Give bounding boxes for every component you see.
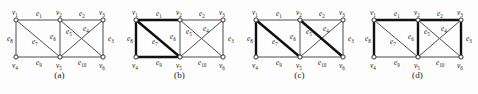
vertex-label-v3: v3: [219, 8, 225, 18]
edge-label-e4: e4: [323, 24, 329, 34]
edge-label-e5: e5: [66, 27, 72, 37]
vertex-label-subscript: 2: [179, 12, 182, 18]
edge-label-e3: e3: [108, 34, 114, 44]
edge-label-subscript: 10: [439, 62, 445, 68]
vertex-v6: [101, 55, 105, 59]
edge-label-e6: e6: [408, 32, 414, 42]
panel-caption-c: (c): [240, 70, 359, 80]
edge-label-subscript: 9: [159, 62, 162, 68]
edge-label-subscript: 7: [275, 41, 278, 47]
vertex-label-v1: v1: [132, 8, 138, 18]
edge-label-e1: e1: [394, 9, 400, 19]
vertex-v5: [298, 55, 302, 59]
edge-label-e8: e8: [365, 34, 371, 44]
vertex-label-subscript: 2: [299, 12, 302, 18]
vertex-v2: [178, 18, 182, 22]
edge-label-e5: e5: [424, 27, 430, 37]
vertex-label-v1: v1: [12, 8, 18, 18]
vertex-label-subscript: 1: [255, 12, 258, 18]
edge-label-subscript: 6: [293, 36, 296, 42]
edge-label-subscript: 2: [202, 13, 205, 19]
edge-label-e2: e2: [319, 9, 325, 19]
vertex-v6: [341, 55, 345, 59]
graph-panel-a: e1e2e3e4e5e6e7e8e9e10v1v2v3v4v5v6(a): [0, 0, 119, 94]
vertex-label-subscript: 3: [102, 12, 105, 18]
edge-label-e9: e9: [276, 58, 282, 68]
edge-label-e6: e6: [50, 32, 56, 42]
edge-label-e9: e9: [156, 58, 162, 68]
panel-caption-d: (d): [358, 70, 477, 80]
vertex-group: v1v2v3v4v5v6: [252, 8, 345, 71]
vertex-v1: [134, 18, 138, 22]
edge-label-e9: e9: [36, 58, 42, 68]
edge-label-e3: e3: [466, 34, 472, 44]
edge-label-e4: e4: [203, 24, 209, 34]
edge-label-subscript: 5: [427, 31, 430, 37]
edge-label-e1: e1: [276, 9, 282, 19]
vertex-label-subscript: 2: [417, 12, 420, 18]
edge-label-subscript: 5: [189, 31, 192, 37]
graph-diagram-a: e1e2e3e4e5e6e7e8e9e10v1v2v3v4v5v6: [0, 0, 119, 72]
edge-label-subscript: 1: [279, 13, 282, 19]
vertex-v4: [14, 55, 18, 59]
vertex-label-v3: v3: [339, 8, 345, 18]
edge-label-e4: e4: [441, 24, 447, 34]
graph-diagram-d: e1e2e3e4e5e6e7e8e9e10v1v2v3v4v5v6: [358, 0, 477, 72]
vertex-label-subscript: 3: [460, 12, 463, 18]
edge-label-subscript: 10: [201, 62, 207, 68]
edge-label-subscript: 8: [130, 38, 133, 44]
vertex-v5: [416, 55, 420, 59]
edge-label-subscript: 6: [53, 36, 56, 42]
vertex-group: v1v2v3v4v5v6: [12, 8, 105, 71]
edge-label-e6: e6: [290, 32, 296, 42]
vertex-label-v1: v1: [252, 8, 258, 18]
vertex-v5: [58, 55, 62, 59]
vertex-v3: [459, 18, 463, 22]
vertex-label-v2: v2: [414, 8, 420, 18]
edge-group-highlighted: [374, 20, 461, 57]
vertex-v2: [58, 18, 62, 22]
edge-label-e10: e10: [198, 58, 207, 68]
edge-label-e10: e10: [436, 58, 445, 68]
vertex-label-subscript: 3: [222, 12, 225, 18]
edge-label-subscript: 9: [39, 62, 42, 68]
edge-label-subscript: 9: [397, 62, 400, 68]
edge-label-subscript: 7: [393, 41, 396, 47]
vertex-label-v3: v3: [457, 8, 463, 18]
edge-label-subscript: 1: [39, 13, 42, 19]
vertex-v3: [101, 18, 105, 22]
vertex-v1: [254, 18, 258, 22]
graph-panel-c: e1e2e3e4e5e6e7e8e9e10v1v2v3v4v5v6(c): [240, 0, 359, 94]
edge-label-subscript: 1: [397, 13, 400, 19]
panel-caption-b: (b): [120, 70, 239, 80]
vertex-label-subscript: 3: [342, 12, 345, 18]
vertex-label-subscript: 1: [373, 12, 376, 18]
edge-label-subscript: 7: [35, 41, 38, 47]
vertex-label-v2: v2: [296, 8, 302, 18]
vertex-v4: [134, 55, 138, 59]
edge-label-subscript: 9: [279, 62, 282, 68]
edge-label-subscript: 8: [250, 38, 253, 44]
vertex-v4: [254, 55, 258, 59]
edge-label-e3: e3: [348, 34, 354, 44]
vertex-v2: [298, 18, 302, 22]
edge-label-subscript: 5: [69, 31, 72, 37]
edge-label-subscript: 3: [231, 38, 234, 44]
vertex-v6: [221, 55, 225, 59]
edge-label-e2: e2: [437, 9, 443, 19]
edge-label-subscript: 8: [10, 38, 13, 44]
vertex-v3: [341, 18, 345, 22]
edge-label-subscript: 10: [81, 62, 87, 68]
edge-label-subscript: 6: [411, 36, 414, 42]
edge-label-subscript: 2: [82, 13, 85, 19]
edge-label-e8: e8: [247, 34, 253, 44]
vertex-label-subscript: 1: [15, 12, 18, 18]
vertex-label-v2: v2: [176, 8, 182, 18]
edge-label-subscript: 3: [351, 38, 354, 44]
edge-label-subscript: 7: [155, 41, 158, 47]
vertex-v4: [372, 55, 376, 59]
edge-label-subscript: 1: [159, 13, 162, 19]
vertex-label-v1: v1: [370, 8, 376, 18]
vertex-label-subscript: 1: [135, 12, 138, 18]
figure-root: e1e2e3e4e5e6e7e8e9e10v1v2v3v4v5v6(a)e1e2…: [0, 0, 478, 94]
